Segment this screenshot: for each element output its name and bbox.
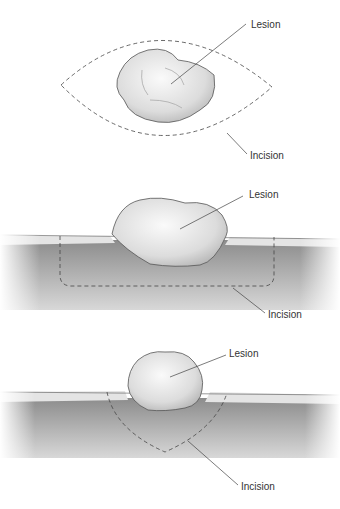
panel-top-view bbox=[61, 24, 272, 154]
lesion-label: Lesion bbox=[249, 189, 278, 200]
incision-label: Incision bbox=[250, 150, 284, 161]
panel-rectangular-section bbox=[0, 196, 340, 320]
lesion-label: Lesion bbox=[251, 19, 280, 30]
incision-leader bbox=[227, 133, 247, 154]
lesion-top bbox=[117, 49, 215, 122]
panel-v-section bbox=[0, 352, 340, 485]
diagram-graphics bbox=[0, 0, 340, 509]
incision-label: Incision bbox=[268, 309, 302, 320]
lesion-label: Lesion bbox=[229, 348, 258, 359]
lesion-raised bbox=[128, 352, 203, 411]
incision-label: Incision bbox=[241, 481, 275, 492]
excision-diagram: Lesion Incision Lesion Incision Lesion I… bbox=[0, 0, 340, 509]
